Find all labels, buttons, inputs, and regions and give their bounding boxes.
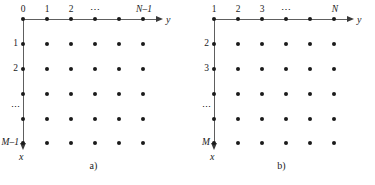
lattice-dot — [308, 42, 312, 46]
lattice-dot — [212, 92, 216, 96]
column-label-1-b: 2 — [236, 5, 241, 15]
lattice-dot — [332, 141, 336, 145]
lattice-dot — [69, 141, 73, 145]
lattice-dot — [260, 117, 264, 121]
lattice-dot — [45, 17, 49, 21]
lattice-dot — [21, 117, 25, 121]
lattice-dot — [212, 42, 216, 46]
lattice-dot — [236, 92, 240, 96]
row-label-1-a: 1 — [13, 39, 18, 49]
column-label-last-b: N — [332, 5, 338, 15]
y-axis-line-b — [214, 19, 347, 20]
lattice-dot — [236, 117, 240, 121]
column-label-0-a: 0 — [21, 5, 26, 15]
lattice-dot — [308, 92, 312, 96]
lattice-dot — [212, 17, 216, 21]
panel-a-plot: y x — [0, 0, 187, 160]
lattice-dot — [93, 42, 97, 46]
lattice-dot — [141, 42, 145, 46]
lattice-dot — [117, 92, 121, 96]
lattice-dot — [141, 141, 145, 145]
lattice-dot — [93, 17, 97, 21]
lattice-dot — [260, 42, 264, 46]
lattice-dot — [21, 141, 25, 145]
lattice-dot — [93, 117, 97, 121]
lattice-dot — [93, 92, 97, 96]
lattice-dot — [308, 117, 312, 121]
lattice-dot — [332, 117, 336, 121]
row-label-2-a: 2 — [13, 64, 18, 74]
lattice-dot — [45, 117, 49, 121]
lattice-dot — [69, 42, 73, 46]
panel-a: y x — [0, 0, 187, 185]
column-label-2-a: 2 — [69, 5, 74, 15]
x-axis-line-a — [23, 19, 24, 143]
panel-b: y x — [188, 0, 375, 185]
lattice-dot — [21, 92, 25, 96]
lattice-dot — [260, 141, 264, 145]
y-axis-arrow-a — [156, 16, 163, 22]
lattice-dot — [212, 117, 216, 121]
lattice-dot — [45, 67, 49, 71]
y-axis-arrow-b — [347, 16, 354, 22]
lattice-dot — [45, 141, 49, 145]
lattice-dot — [21, 67, 25, 71]
column-label-2-b: 3 — [260, 5, 265, 15]
lattice-dot — [260, 17, 264, 21]
lattice-dot — [141, 117, 145, 121]
column-ellipsis-b: ⋯ — [281, 5, 292, 15]
lattice-dot — [332, 17, 336, 21]
lattice-dot — [284, 92, 288, 96]
column-label-1-a: 1 — [45, 5, 50, 15]
lattice-dot — [236, 42, 240, 46]
column-label-0-b: 1 — [212, 5, 217, 15]
lattice-dot — [212, 67, 216, 71]
lattice-dot — [284, 67, 288, 71]
row-label-last-b: M — [202, 138, 210, 148]
y-axis-label-b: y — [357, 15, 361, 25]
lattice-dot — [284, 42, 288, 46]
y-axis-line-a — [23, 19, 156, 20]
lattice-dot — [117, 42, 121, 46]
lattice-dot — [308, 141, 312, 145]
lattice-dot — [69, 17, 73, 21]
lattice-dot — [117, 141, 121, 145]
lattice-dot — [284, 17, 288, 21]
panel-caption-a: a) — [0, 160, 187, 171]
figure-root: y x — [0, 0, 375, 185]
column-label-last-a: N–1 — [136, 5, 152, 15]
lattice-dot — [260, 67, 264, 71]
lattice-dot — [236, 67, 240, 71]
lattice-dot — [332, 92, 336, 96]
column-ellipsis-a: ⋯ — [90, 5, 101, 15]
lattice-dot — [69, 92, 73, 96]
lattice-dot — [117, 17, 121, 21]
row-label-last-a: M–1 — [2, 138, 19, 148]
lattice-dot — [332, 67, 336, 71]
lattice-dot — [93, 67, 97, 71]
x-axis-line-b — [214, 19, 215, 143]
lattice-dot — [212, 141, 216, 145]
lattice-dot — [45, 42, 49, 46]
lattice-dot — [117, 117, 121, 121]
lattice-dot — [308, 17, 312, 21]
row-ellipsis-a: ⋮ — [10, 102, 19, 112]
lattice-dot — [69, 117, 73, 121]
lattice-dot — [21, 17, 25, 21]
lattice-dot — [284, 141, 288, 145]
panel-b-plot: y x — [188, 0, 375, 160]
lattice-dot — [284, 117, 288, 121]
lattice-dot — [21, 42, 25, 46]
y-axis-label-a: y — [166, 15, 170, 25]
lattice-dot — [332, 42, 336, 46]
lattice-dot — [141, 67, 145, 71]
lattice-dot — [236, 17, 240, 21]
row-label-1-b: 2 — [204, 39, 209, 49]
lattice-dot — [69, 67, 73, 71]
lattice-dot — [308, 67, 312, 71]
lattice-dot — [141, 92, 145, 96]
row-ellipsis-b: ⋮ — [201, 102, 210, 112]
panel-caption-b: b) — [188, 160, 375, 171]
lattice-dot — [141, 17, 145, 21]
lattice-dot — [45, 92, 49, 96]
